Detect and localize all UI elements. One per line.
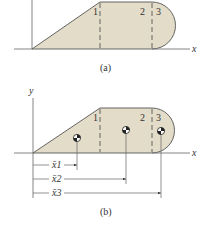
segment-label-1: 1 <box>93 112 98 123</box>
centroid-icon-3 <box>157 127 164 134</box>
caption-a: (a) <box>100 62 111 74</box>
segment-label-1: 1 <box>93 6 98 17</box>
segment-label-2: 2 <box>140 6 145 17</box>
caption-b: (b) <box>100 206 112 218</box>
y-axis-label: y <box>28 85 34 96</box>
dimension-label-1: x̄1 <box>51 159 61 170</box>
segment-label-3: 3 <box>156 112 161 123</box>
dimension-label-3: x̄3 <box>51 187 61 198</box>
composite-shape <box>32 2 176 49</box>
segment-label-3: 3 <box>156 6 161 17</box>
centroid-icon-2 <box>122 126 129 133</box>
composite-shape <box>33 108 175 153</box>
panel-b: y 1 2 3 x <box>14 85 197 218</box>
segment-label-2: 2 <box>140 112 145 123</box>
composite-area-diagram: 1 2 3 x (a) y 1 2 3 x <box>0 0 207 232</box>
x-axis-label: x <box>191 147 197 158</box>
dimension-label-2: x̄2 <box>51 173 61 184</box>
panel-a: 1 2 3 x (a) <box>14 0 197 74</box>
centroid-icon-1 <box>73 134 80 141</box>
x-axis-label: x <box>191 43 197 54</box>
